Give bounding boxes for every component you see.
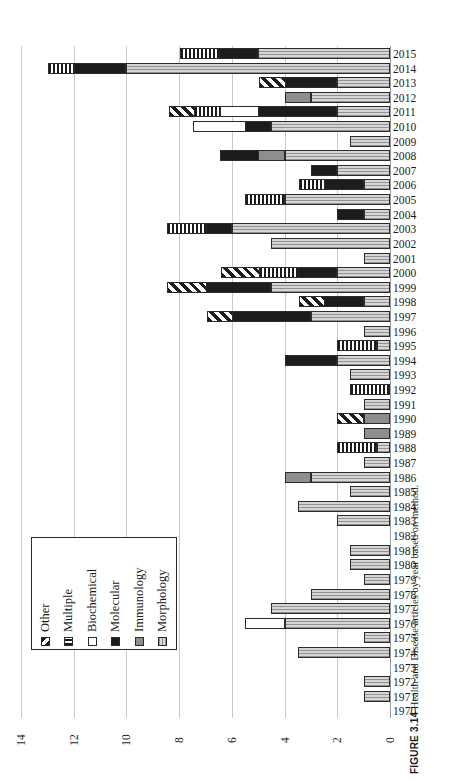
category-label-1974: 1974 (393, 645, 427, 661)
bar-segment-molecular (220, 150, 260, 161)
chart-legend: OtherMultipleBiochemicalMolecularImmunol… (31, 537, 177, 650)
chart-row (21, 338, 390, 353)
chart-row (21, 382, 390, 397)
category-label-2004: 2004 (393, 207, 427, 223)
stacked-bar (286, 355, 390, 366)
chart-row (21, 104, 390, 119)
legend-item-biochemical[interactable]: Biochemical (84, 542, 101, 646)
category-label-2001: 2001 (393, 251, 427, 267)
bar-segment-multiple (337, 340, 377, 351)
stacked-bar (271, 238, 390, 249)
stacked-bar (168, 282, 390, 293)
stacked-bar (246, 618, 390, 629)
category-label-1982: 1982 (393, 528, 427, 544)
category-label-1976: 1976 (393, 616, 427, 632)
legend-label: Molecular (108, 580, 123, 631)
bar-segment-other (169, 106, 195, 117)
chart-row (21, 455, 390, 470)
chart-row (21, 513, 390, 528)
bar-segment-morphology (377, 442, 390, 453)
chart-row (21, 426, 390, 441)
category-label-1990: 1990 (393, 411, 427, 427)
category-label-2005: 2005 (393, 192, 427, 208)
bar-segment-morphology (350, 136, 390, 147)
chart-row (21, 75, 390, 90)
stacked-bar (364, 574, 390, 585)
bar-segment-molecular (337, 209, 363, 220)
value-tick-0: 0 (384, 729, 396, 751)
category-label-1972: 1972 (393, 674, 427, 690)
bar-segment-molecular (232, 311, 311, 322)
bar-segment-multiple (180, 48, 220, 59)
chart-row (21, 207, 390, 222)
legend-item-morphology[interactable]: Morphology (154, 542, 171, 646)
chart-row (21, 470, 390, 485)
legend-items: OtherMultipleBiochemicalMolecularImmunol… (35, 542, 173, 646)
category-label-1988: 1988 (393, 440, 427, 456)
chart-row (21, 660, 390, 675)
stacked-bar (364, 632, 390, 643)
category-label-2009: 2009 (393, 134, 427, 150)
bar-segment-molecular (324, 179, 364, 190)
value-tick-6: 6 (226, 729, 238, 751)
legend-label: Immunology (132, 567, 147, 632)
bar-segment-morphology (364, 209, 390, 220)
category-label-1993: 1993 (393, 367, 427, 383)
legend-item-immunology[interactable]: Immunology (131, 542, 148, 646)
value-tick-2: 2 (331, 729, 343, 751)
bar-segment-morphology (285, 618, 390, 629)
legend-swatch-white-icon (88, 637, 97, 646)
stacked-bar (260, 77, 390, 88)
stacked-bar (350, 486, 390, 497)
legend-swatch-diagonal-hatch-icon (41, 637, 50, 646)
bar-segment-immunology (285, 92, 311, 103)
category-label-2006: 2006 (393, 177, 427, 193)
value-tick-4: 4 (279, 729, 291, 751)
category-label-2002: 2002 (393, 236, 427, 252)
stacked-bar (364, 457, 390, 468)
category-label-2011: 2011 (393, 104, 427, 120)
stacked-bar (194, 121, 390, 132)
chart-row (21, 61, 390, 76)
bar-segment-morphology (364, 296, 390, 307)
chart-row (21, 440, 390, 455)
bar-segment-molecular (219, 48, 259, 59)
chart-row (21, 484, 390, 499)
bar-segment-multiple (299, 179, 325, 190)
category-label-1973: 1973 (393, 660, 427, 676)
bar-segment-morphology (271, 121, 390, 132)
chart-row (21, 163, 390, 178)
stacked-bar (298, 501, 390, 512)
bar-segment-other (167, 282, 207, 293)
stacked-bar (364, 253, 390, 264)
category-label-1980: 1980 (393, 557, 427, 573)
bar-segment-morphology (364, 691, 390, 702)
category-label-1995: 1995 (393, 338, 427, 354)
category-label-1981: 1981 (393, 543, 427, 559)
bar-segment-molecular (258, 106, 337, 117)
category-label-1991: 1991 (393, 397, 427, 413)
bar-segment-morphology (364, 253, 390, 264)
category-label-1999: 1999 (393, 280, 427, 296)
bar-segment-other (299, 296, 325, 307)
chart-row (21, 499, 390, 514)
chart-row (21, 294, 390, 309)
bar-segment-morphology (337, 106, 390, 117)
stacked-bar (300, 179, 390, 190)
bar-segment-other (207, 311, 233, 322)
bar-segment-molecular (324, 296, 364, 307)
legend-item-other[interactable]: Other (37, 542, 54, 646)
legend-label: Other (38, 603, 53, 631)
stacked-bar (170, 106, 390, 117)
stacked-bar (286, 92, 390, 103)
bar-segment-other (337, 413, 363, 424)
bar-segment-morphology (337, 267, 390, 278)
legend-item-molecular[interactable]: Molecular (107, 542, 124, 646)
bar-segment-morphology (364, 632, 390, 643)
legend-swatch-dark-gray-icon (135, 637, 144, 646)
stacked-bar (364, 428, 390, 439)
bar-segment-morphology (285, 194, 390, 205)
legend-item-multiple[interactable]: Multiple (60, 542, 77, 646)
category-label-1970: 1970 (393, 703, 427, 719)
value-tick-8: 8 (173, 729, 185, 751)
